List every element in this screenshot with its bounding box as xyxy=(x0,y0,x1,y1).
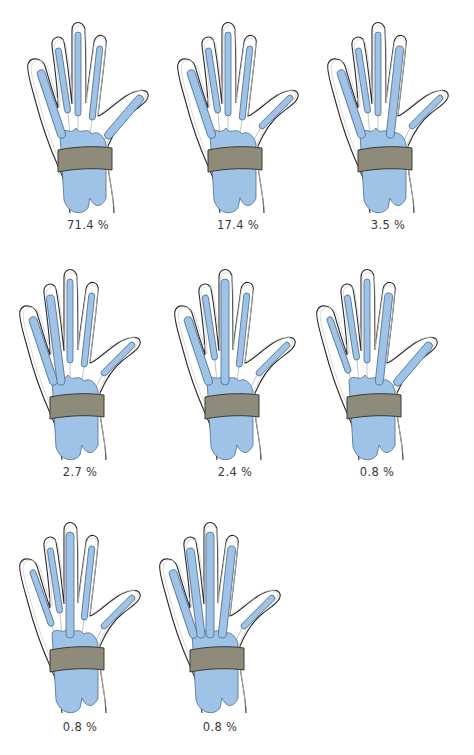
hand-diagram-icon xyxy=(308,8,468,223)
frequency-label-3: 3.5 % xyxy=(308,218,468,232)
hand-panel-8 xyxy=(140,508,300,723)
frequency-label-4: 2.7 % xyxy=(0,465,160,479)
hand-panel-4 xyxy=(0,255,160,470)
hand-diagram-icon xyxy=(0,255,160,470)
hand-diagram-icon xyxy=(158,8,318,223)
frequency-label-8: 0.8 % xyxy=(140,720,300,734)
hand-panel-1 xyxy=(8,8,168,223)
hand-diagram-icon xyxy=(155,255,315,470)
frequency-label-5: 2.4 % xyxy=(155,465,315,479)
hand-diagram-icon xyxy=(8,8,168,223)
hand-diagram-icon xyxy=(0,508,160,723)
frequency-label-1: 71.4 % xyxy=(8,218,168,232)
hand-diagram-icon xyxy=(140,508,300,723)
hand-diagram-icon xyxy=(297,255,457,470)
frequency-label-6: 0.8 % xyxy=(297,465,457,479)
frequency-label-7: 0.8 % xyxy=(0,720,160,734)
hand-panel-3 xyxy=(308,8,468,223)
hand-panel-5 xyxy=(155,255,315,470)
hand-panel-6 xyxy=(297,255,457,470)
hand-panel-7 xyxy=(0,508,160,723)
frequency-label-2: 17.4 % xyxy=(158,218,318,232)
hand-panel-2 xyxy=(158,8,318,223)
